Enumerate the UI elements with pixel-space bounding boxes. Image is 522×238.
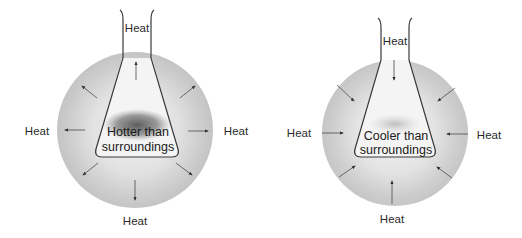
heat-label-right: Heat: [224, 125, 249, 137]
heat-flow-diagram: Heat Heat Heat Heat Hotter than surround…: [0, 0, 522, 238]
flask-label-line1: Hotter than: [107, 125, 169, 139]
heat-label-right: Heat: [477, 129, 502, 141]
flask-label-line2: surroundings: [102, 140, 174, 154]
diagram-cooler: Heat Heat Heat Heat Cooler than surround…: [287, 18, 502, 225]
flask-label-line2: surroundings: [360, 143, 432, 157]
heat-label-left: Heat: [25, 125, 50, 137]
heat-label-top: Heat: [383, 35, 408, 47]
diagram-hotter: Heat Heat Heat Heat Hotter than surround…: [25, 10, 249, 227]
heat-label-bottom: Heat: [123, 215, 148, 227]
flask-label-line1: Cooler than: [364, 129, 429, 143]
heat-label-bottom: Heat: [380, 213, 405, 225]
heat-label-left: Heat: [287, 127, 312, 139]
heat-label-top: Heat: [125, 22, 150, 34]
